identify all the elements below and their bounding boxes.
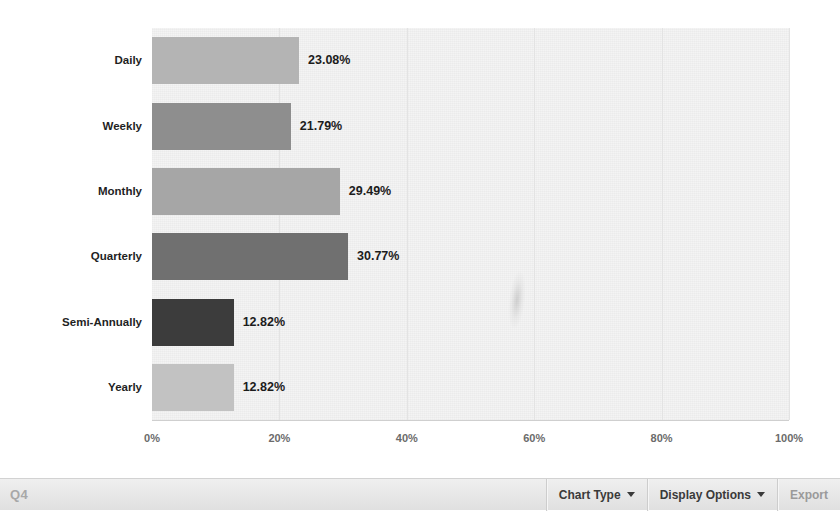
- display-options-label: Display Options: [660, 488, 751, 502]
- bar-value-label: 12.82%: [243, 299, 285, 346]
- x-axis-tick-label: 60%: [523, 432, 545, 444]
- bar[interactable]: [152, 299, 234, 346]
- bar[interactable]: [152, 233, 348, 280]
- chevron-down-icon: [757, 492, 765, 497]
- x-axis-tick-label: 0%: [144, 432, 160, 444]
- x-axis-line: [152, 420, 789, 421]
- gridline: [279, 28, 280, 420]
- toolbar-actions: Chart Type Display Options Export: [546, 479, 840, 511]
- chart-type-label: Chart Type: [559, 488, 621, 502]
- y-axis-label: Monthly: [0, 168, 142, 215]
- y-axis-label: Daily: [0, 37, 142, 84]
- bar[interactable]: [152, 37, 299, 84]
- plot-texture: [152, 28, 789, 420]
- x-axis-tick-label: 100%: [775, 432, 803, 444]
- gridline: [662, 28, 663, 420]
- export-button[interactable]: Export: [777, 479, 840, 511]
- export-label: Export: [790, 488, 828, 502]
- x-axis-tick-label: 80%: [651, 432, 673, 444]
- chevron-down-icon: [627, 492, 635, 497]
- gridline: [534, 28, 535, 420]
- display-options-menu[interactable]: Display Options: [647, 479, 777, 511]
- bar-value-label: 21.79%: [300, 103, 342, 150]
- bar[interactable]: [152, 168, 340, 215]
- plot-background: [152, 28, 789, 420]
- bar-value-label: 23.08%: [308, 37, 350, 84]
- y-axis-label: Quarterly: [0, 233, 142, 280]
- y-axis-label: Yearly: [0, 364, 142, 411]
- x-axis-tick-label: 20%: [268, 432, 290, 444]
- y-axis-label: Weekly: [0, 103, 142, 150]
- bar-value-label: 12.82%: [243, 364, 285, 411]
- gridline: [407, 28, 408, 420]
- bar[interactable]: [152, 364, 234, 411]
- gridline: [789, 28, 790, 420]
- y-axis-label: Semi-Annually: [0, 299, 142, 346]
- quarter-label: Q4: [0, 487, 28, 502]
- chart-type-menu[interactable]: Chart Type: [546, 479, 647, 511]
- bar-value-label: 30.77%: [357, 233, 399, 280]
- plot-artifact: [506, 270, 528, 329]
- bar-value-label: 29.49%: [349, 168, 391, 215]
- chart-area: DailyWeeklyMonthlyQuarterlySemi-Annually…: [0, 0, 840, 470]
- x-axis-tick-label: 40%: [396, 432, 418, 444]
- bar[interactable]: [152, 103, 291, 150]
- bottom-toolbar: Q4 Chart Type Display Options Export: [0, 478, 840, 510]
- y-axis-labels: DailyWeeklyMonthlyQuarterlySemi-Annually…: [0, 28, 142, 420]
